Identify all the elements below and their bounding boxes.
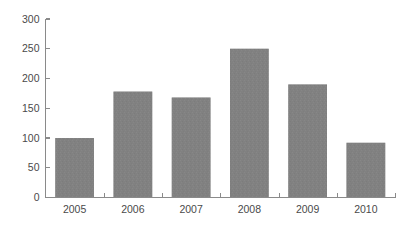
x-tick-label: 2007 <box>179 203 203 215</box>
y-tick-label: 0 <box>34 191 40 203</box>
x-tick-label: 2008 <box>238 203 262 215</box>
y-tick-label: 200 <box>22 72 40 84</box>
bar-texture-overlay <box>55 138 94 198</box>
y-tick-label: 250 <box>22 42 40 54</box>
x-tick-label: 2005 <box>63 203 87 215</box>
x-tick-label: 2010 <box>354 203 378 215</box>
bar-texture-overlay <box>347 143 386 198</box>
bar-texture-overlay <box>288 84 327 197</box>
x-tick-label: 2006 <box>121 203 145 215</box>
y-tick-label: 300 <box>22 13 40 25</box>
y-tick-label: 150 <box>22 102 40 114</box>
chart-canvas: 050100150200250300 200520062007200820092… <box>0 0 407 230</box>
bar-texture-overlay <box>172 98 211 198</box>
bar-texture-overlay <box>114 92 153 198</box>
bar-texture-overlay <box>230 49 269 198</box>
bar-chart: 050100150200250300 200520062007200820092… <box>0 0 407 230</box>
y-tick-label: 100 <box>22 132 40 144</box>
x-tick-label: 2009 <box>296 203 320 215</box>
y-tick-label: 50 <box>28 161 40 173</box>
